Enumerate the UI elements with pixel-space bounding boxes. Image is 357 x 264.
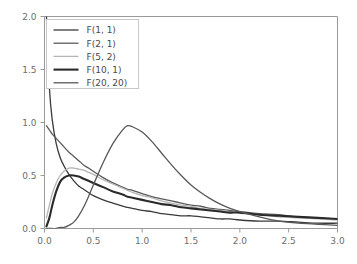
x-tick-label: 0.5 <box>86 236 100 246</box>
y-tick-label: 2.0 <box>22 12 37 22</box>
legend[interactable]: F(1, 1)F(2, 1)F(5, 2)F(10, 1)F(20, 20) <box>47 20 139 89</box>
legend-item-label[interactable]: F(5, 2) <box>87 52 116 62</box>
x-tick-label: 2.0 <box>233 236 248 246</box>
legend-item-label[interactable]: F(20, 20) <box>87 78 128 88</box>
y-tick-label: 1.0 <box>22 118 37 128</box>
x-tick-label: 1.5 <box>184 236 198 246</box>
x-tick-label: 1.0 <box>135 236 150 246</box>
legend-item-label[interactable]: F(10, 1) <box>87 65 122 75</box>
chart-canvas: 0.00.51.01.52.02.53.0 0.00.51.01.52.0 F(… <box>0 0 357 264</box>
x-tick-label: 0.0 <box>37 236 52 246</box>
y-tick-label: 0.5 <box>22 171 36 181</box>
x-tick-label: 2.5 <box>282 236 296 246</box>
x-tick-label: 3.0 <box>330 236 345 246</box>
legend-item-label[interactable]: F(1, 1) <box>87 25 116 35</box>
y-tick-label: 0.0 <box>22 224 37 234</box>
legend-item-label[interactable]: F(2, 1) <box>87 39 116 49</box>
y-tick-label: 1.5 <box>22 65 36 75</box>
chart-figure: 0.00.51.01.52.02.53.0 0.00.51.01.52.0 F(… <box>0 0 357 264</box>
